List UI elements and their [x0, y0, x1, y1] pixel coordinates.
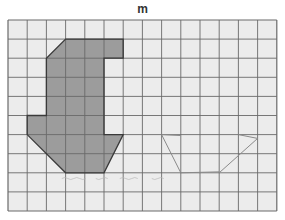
grid-board [0, 0, 285, 220]
